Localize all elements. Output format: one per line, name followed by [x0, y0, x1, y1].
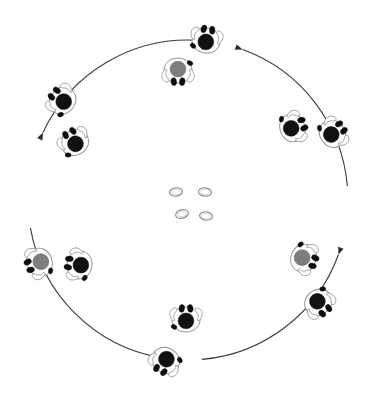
figure-left-inner-top [53, 121, 95, 161]
diagram-canvas [0, 0, 374, 401]
ring-hole [177, 210, 186, 217]
figure-left-inner [62, 246, 95, 283]
figure-foot-left [209, 26, 215, 34]
center-ring-2 [198, 187, 212, 197]
figure-top-inner [162, 58, 194, 86]
arc-path [30, 228, 160, 358]
figure-head-gray [170, 61, 186, 77]
ring-outline [175, 208, 190, 219]
center-ring-1 [169, 187, 183, 197]
figure-head-dark [178, 313, 194, 329]
figures-group [20, 23, 355, 382]
figure-foot-left [65, 256, 73, 262]
figure-hand-object [65, 153, 71, 157]
ring-hole [201, 189, 210, 195]
figure-top [188, 23, 225, 56]
center-ring-4 [199, 211, 213, 221]
ring-hole [172, 189, 181, 195]
figure-right-inner [286, 239, 323, 279]
figure-upper-right [275, 107, 312, 147]
arrow-arrow-left-top [30, 228, 168, 362]
figure-lower-left [20, 243, 57, 283]
figure-bottom [144, 342, 186, 382]
center-ring-3 [175, 208, 190, 219]
circle-arrangement-diagram [0, 0, 374, 401]
ring-outline [169, 187, 183, 197]
arrowhead [338, 247, 343, 255]
ring-hole [202, 213, 211, 219]
figure-hand-object [317, 125, 322, 131]
ring-outline [198, 187, 212, 197]
arrowhead [235, 44, 243, 49]
center-rings-group [169, 187, 213, 221]
figure-bottom-inner [170, 304, 202, 332]
arrowhead [37, 132, 43, 140]
figure-lower-right [298, 282, 341, 324]
figure-right-upper [313, 112, 354, 155]
